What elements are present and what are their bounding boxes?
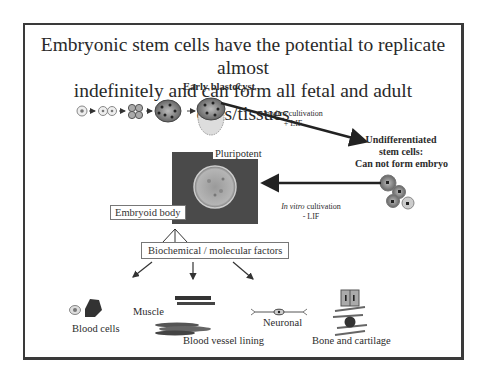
arrow-to-blood	[133, 262, 152, 277]
stem-cell-cluster-icon	[380, 175, 414, 209]
zygote-icon	[77, 106, 87, 116]
two-cell-icon	[99, 107, 117, 116]
neuron-icon	[251, 309, 307, 315]
early-blastocyst-label: Early blastocyst	[183, 81, 255, 92]
embryoid-body-label: Embryoid body	[110, 205, 186, 220]
morula-icon	[128, 104, 142, 118]
muscle-label: Muscle	[133, 306, 164, 317]
blastocyst-icon	[155, 100, 181, 122]
bone-cartilage-icon	[333, 290, 367, 335]
arrow-to-neuronal	[233, 262, 253, 279]
diagram-graphics	[25, 25, 461, 357]
bone-cartilage-label: Bone and cartilage	[312, 335, 391, 346]
branch-lines	[163, 229, 187, 242]
blood-cells-label: Blood cells	[72, 323, 120, 334]
cultivation-minus-lif-label: In vitro cultivation - LIF	[275, 202, 347, 221]
undifferentiated-label: Undifferentiated stem cells: Can not for…	[355, 134, 447, 170]
neuronal-label: Neuronal	[263, 317, 302, 328]
cultivation-plus-lif-label: In vitro cultivation + LIF	[257, 109, 329, 128]
slide: Embryonic stem cells have the potential …	[23, 23, 464, 360]
blood-vessel-label: Blood vessel lining	[183, 335, 264, 346]
pluripotent-label: Pluripotent	[213, 148, 264, 159]
early-blastocyst-icon	[197, 98, 225, 135]
blood-vessel-icon	[155, 323, 211, 336]
blood-cell-icon	[70, 299, 103, 317]
factors-box: Biochemical / molecular factors	[141, 242, 289, 259]
muscle-icon	[175, 296, 215, 305]
